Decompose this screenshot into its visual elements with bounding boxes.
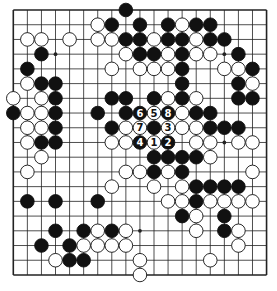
- black-stone: [91, 106, 105, 120]
- white-stone: [119, 165, 133, 179]
- white-stone: [161, 47, 175, 61]
- black-stone: [49, 195, 63, 209]
- black-stone: [218, 209, 232, 223]
- white-stone: [133, 253, 147, 267]
- white-stone: [35, 33, 49, 47]
- white-stone: [161, 62, 175, 76]
- white-stone: [203, 150, 217, 164]
- black-stone: [246, 62, 260, 76]
- numbered-stone-8: 8: [161, 106, 175, 120]
- black-stone: [175, 33, 189, 47]
- numbered-stone-4: 4: [133, 136, 147, 150]
- white-stone: [35, 92, 49, 106]
- black-stone: [119, 106, 133, 120]
- black-stone: [77, 224, 91, 238]
- white-stone: [105, 62, 119, 76]
- black-stone: [203, 180, 217, 194]
- black-stone: [35, 77, 49, 91]
- black-stone: [147, 150, 161, 164]
- white-stone: [119, 121, 133, 135]
- white-stone: [246, 136, 260, 150]
- white-stone: [105, 239, 119, 253]
- white-stone: [119, 239, 133, 253]
- white-stone: [189, 33, 203, 47]
- black-stone: [161, 150, 175, 164]
- white-stone: [63, 33, 77, 47]
- white-stone: [133, 165, 147, 179]
- black-stone: [105, 18, 119, 32]
- numbered-stone-1: 1: [147, 136, 161, 150]
- black-stone: [49, 77, 63, 91]
- black-stone: [49, 92, 63, 106]
- white-stone: [232, 195, 246, 209]
- white-stone: [189, 47, 203, 61]
- black-stone: [203, 106, 217, 120]
- black-stone: [232, 47, 246, 61]
- white-stone: [203, 47, 217, 61]
- black-stone: [21, 62, 35, 76]
- black-stone: [35, 239, 49, 253]
- black-stone: [232, 77, 246, 91]
- white-stone: [203, 195, 217, 209]
- black-stone: [119, 33, 133, 47]
- white-stone: [105, 136, 119, 150]
- black-stone: [49, 121, 63, 135]
- star-point: [138, 229, 142, 233]
- move-number: 1: [151, 137, 158, 148]
- white-stone: [175, 18, 189, 32]
- black-stone: [147, 47, 161, 61]
- white-stone: [105, 33, 119, 47]
- white-stone: [147, 62, 161, 76]
- black-stone: [161, 33, 175, 47]
- black-stone: [133, 33, 147, 47]
- black-stone: [218, 180, 232, 194]
- black-stone: [175, 92, 189, 106]
- black-stone: [49, 224, 63, 238]
- white-stone: [21, 121, 35, 135]
- black-stone: [203, 121, 217, 135]
- white-stone: [161, 165, 175, 179]
- star-point: [54, 52, 58, 56]
- white-stone: [77, 239, 91, 253]
- black-stone: [218, 33, 232, 47]
- white-stone: [175, 121, 189, 135]
- black-stone: [119, 3, 133, 17]
- white-stone: [203, 253, 217, 267]
- white-stone: [133, 62, 147, 76]
- white-stone: [161, 92, 175, 106]
- white-stone: [119, 136, 133, 150]
- black-stone: [77, 253, 91, 267]
- white-stone: [91, 33, 105, 47]
- black-stone: [203, 18, 217, 32]
- black-stone: [189, 150, 203, 164]
- black-stone: [147, 92, 161, 106]
- numbered-stone-2: 2: [161, 136, 175, 150]
- move-number: 5: [151, 108, 158, 119]
- white-stone: [161, 195, 175, 209]
- black-stone: [147, 165, 161, 179]
- black-stone: [63, 253, 77, 267]
- black-stone: [232, 121, 246, 135]
- white-stone: [147, 180, 161, 194]
- black-stone: [189, 195, 203, 209]
- white-stone: [189, 136, 203, 150]
- white-stone: [189, 121, 203, 135]
- move-number: 8: [165, 108, 172, 119]
- black-stone: [91, 195, 105, 209]
- black-stone: [175, 47, 189, 61]
- white-stone: [175, 106, 189, 120]
- white-stone: [232, 224, 246, 238]
- numbered-stone-3: 3: [161, 121, 175, 135]
- white-stone: [203, 136, 217, 150]
- white-stone: [246, 77, 260, 91]
- white-stone: [91, 18, 105, 32]
- white-stone: [147, 33, 161, 47]
- black-stone: [21, 195, 35, 209]
- numbered-stone-7: 7: [133, 121, 147, 135]
- white-stone: [189, 209, 203, 223]
- move-number: 6: [136, 108, 143, 119]
- black-stone: [232, 180, 246, 194]
- black-stone: [189, 18, 203, 32]
- move-number: 3: [165, 122, 172, 133]
- white-stone: [49, 253, 63, 267]
